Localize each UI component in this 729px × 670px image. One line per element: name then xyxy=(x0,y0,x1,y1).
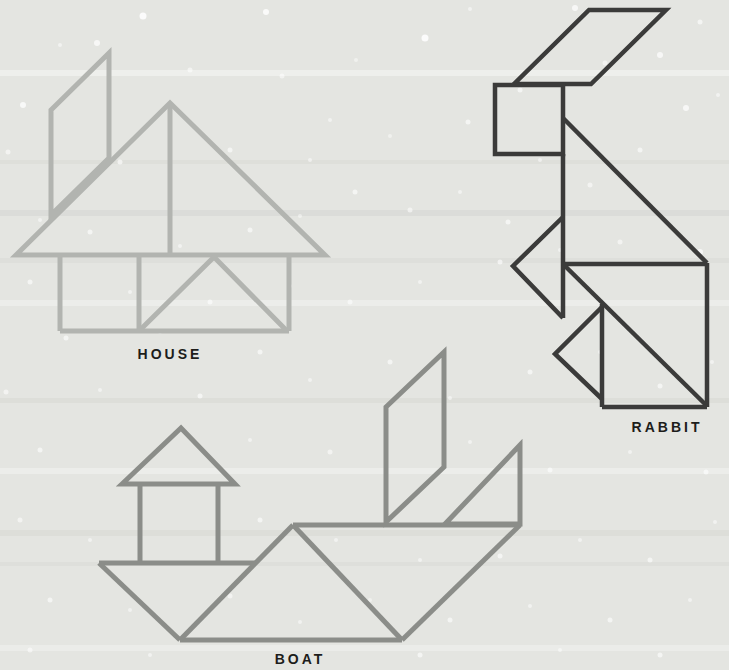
boat-hull-diagonal-right xyxy=(293,525,402,640)
boat-label: BOAT xyxy=(275,651,326,667)
boat-cabin-roof-triangle xyxy=(122,428,235,484)
boat-hull-right-edge xyxy=(402,525,520,640)
house-figure xyxy=(16,53,325,331)
rabbit-foot-triangle xyxy=(555,307,602,399)
tangram-figures xyxy=(0,0,729,670)
rabbit-head-square xyxy=(495,85,563,154)
boat-sail-parallelogram xyxy=(386,352,444,522)
rabbit-ear-parallelogram xyxy=(514,10,666,84)
house-door-triangle xyxy=(139,257,287,331)
boat-sail-triangle xyxy=(445,445,520,524)
rabbit-back-hypotenuse xyxy=(563,118,707,263)
boat-hull-diagonal-left xyxy=(180,525,293,640)
rabbit-figure xyxy=(495,10,707,407)
rabbit-label: RABBIT xyxy=(632,419,703,435)
house-label: HOUSE xyxy=(138,346,203,362)
boat-hull-left-edge xyxy=(99,563,180,640)
tangram-worksheet: HOUSE RABBIT BOAT xyxy=(0,0,729,670)
rabbit-chest-triangle xyxy=(513,217,563,318)
boat-figure xyxy=(99,352,520,640)
